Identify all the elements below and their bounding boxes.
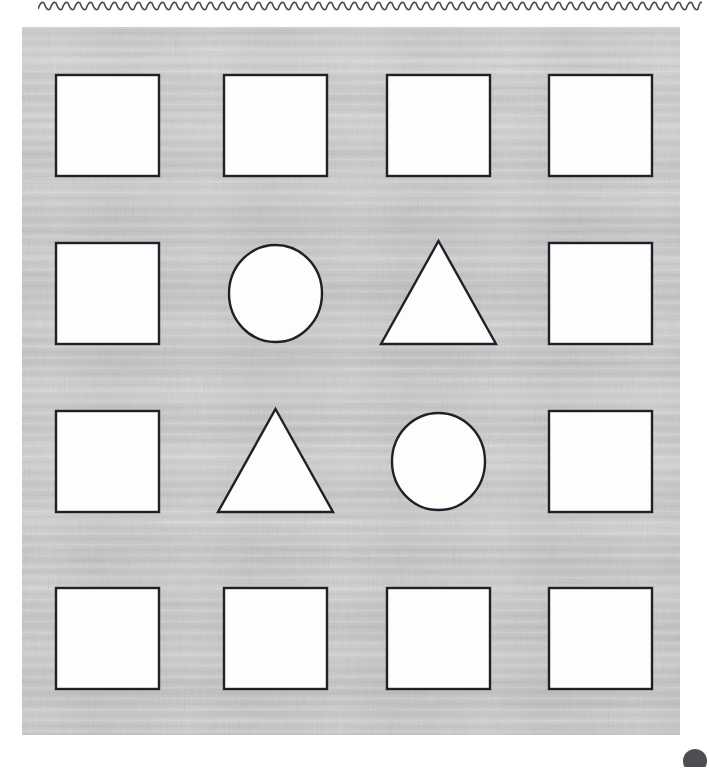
wavy-rule-svg: [38, 0, 702, 14]
wavy-rule-path: [38, 2, 702, 9]
page-marker-svg: [676, 745, 709, 767]
page-marker-dot: [676, 745, 709, 767]
panel-grain: [22, 27, 680, 735]
panel-streaks: [22, 27, 680, 735]
panel-texture-overlay: [22, 27, 680, 735]
page-marker-circle: [683, 749, 707, 767]
wavy-rule-icon: [38, 0, 702, 14]
panel-texture-svg: [22, 27, 680, 735]
texture-panel: [22, 27, 680, 735]
